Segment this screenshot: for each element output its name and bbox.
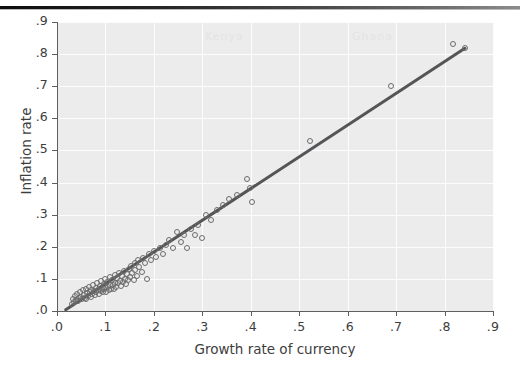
x-tick [202,311,203,316]
y-tick [52,54,57,55]
data-point [234,192,240,198]
x-tick-label: .3 [182,319,222,334]
y-tick [52,247,57,248]
y-axis-line [57,22,58,312]
y-tick [52,150,57,151]
x-tick-label: .6 [328,319,368,334]
data-points-layer [57,22,493,311]
x-tick [154,311,155,316]
data-point [163,242,169,248]
y-tick [52,215,57,216]
x-tick-label: .9 [473,319,513,334]
data-point [192,232,198,238]
x-tick [105,311,106,316]
x-tick-label: .0 [37,319,77,334]
x-tick-label: .7 [376,319,416,334]
data-point [188,226,194,232]
x-axis-title: Growth rate of currency [57,341,493,357]
x-tick [57,311,58,316]
x-tick [348,311,349,316]
y-tick-label: .0 [8,302,48,317]
data-point [144,276,150,282]
data-point [220,202,226,208]
x-tick [396,311,397,316]
x-tick [251,311,252,316]
y-tick [52,118,57,119]
x-tick [299,311,300,316]
data-point [178,239,184,245]
plot-area: KenyaGhana [57,22,493,311]
y-tick [52,311,57,312]
x-tick-label: .5 [279,319,319,334]
y-tick [52,86,57,87]
data-point [214,207,220,213]
data-point [249,199,255,205]
x-tick-label: .2 [134,319,174,334]
header-rule-hairline [0,9,520,10]
x-tick [493,311,494,316]
y-tick [52,183,57,184]
y-tick [52,279,57,280]
data-point [160,251,166,257]
figure: KenyaGhana .0.1.2.3.4.5.6.7.8.9 .0.1.2.3… [0,0,520,365]
y-tick-label: .9 [8,13,48,28]
x-tick [445,311,446,316]
y-axis-title: Inflation rate [18,51,34,251]
gridline-vertical [493,22,494,311]
x-axis-line [57,311,493,312]
data-point [307,138,313,144]
x-tick-label: .1 [85,319,125,334]
x-tick-label: .4 [231,319,271,334]
data-point [247,185,253,191]
data-point [184,245,190,251]
y-tick [52,22,57,23]
y-tick-label: .1 [8,270,48,285]
x-tick-label: .8 [425,319,465,334]
